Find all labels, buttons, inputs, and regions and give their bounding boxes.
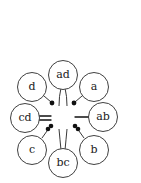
connector-bc-right xyxy=(65,129,67,150)
connector-ad-left xyxy=(59,88,61,106)
ring-diagram: ad a ab b bc c cd d xyxy=(0,0,141,183)
node-label: ab xyxy=(96,110,110,123)
node-label: cd xyxy=(18,111,31,124)
node-label: ad xyxy=(56,68,70,81)
connector-d-line xyxy=(44,96,51,102)
node-bc: bc xyxy=(49,149,78,178)
connector-a-line xyxy=(75,96,82,102)
connector-d-dot xyxy=(50,101,55,106)
node-label: b xyxy=(90,143,97,156)
node-label: bc xyxy=(56,156,69,169)
connector-b-line xyxy=(79,131,84,138)
connector-ad-right xyxy=(65,88,67,106)
node-label: d xyxy=(28,80,35,93)
connectors xyxy=(39,88,89,150)
node-ab: ab xyxy=(89,103,118,132)
node-label: c xyxy=(29,143,35,156)
connector-b-dot-2 xyxy=(76,127,81,132)
node-label: a xyxy=(91,80,98,93)
node-d: d xyxy=(18,73,47,102)
node-cd: cd xyxy=(11,104,40,133)
node-c: c xyxy=(18,136,47,165)
node-b: b xyxy=(80,136,109,165)
connector-c-line xyxy=(42,131,47,138)
connector-bc-left xyxy=(59,129,61,150)
connector-a-dot xyxy=(72,101,77,106)
node-ad: ad xyxy=(49,61,78,90)
connector-c-dot-2 xyxy=(49,124,54,129)
node-a: a xyxy=(80,73,109,102)
